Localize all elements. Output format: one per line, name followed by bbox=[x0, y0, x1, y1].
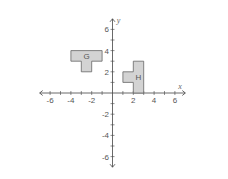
x-tick-label: 6 bbox=[173, 96, 178, 105]
x-tick-label: -2 bbox=[88, 96, 96, 105]
x-tick-label: 4 bbox=[152, 96, 157, 105]
coordinate-plane: GH -6-4-2246642-2-4-6xy bbox=[0, 0, 228, 179]
y-tick-label: 6 bbox=[105, 25, 110, 34]
y-tick-label: -2 bbox=[102, 110, 110, 119]
tick-labels: -6-4-2246642-2-4-6xy bbox=[47, 16, 183, 162]
axes bbox=[40, 19, 186, 167]
x-axis-label: x bbox=[177, 82, 182, 91]
x-tick-label: -6 bbox=[47, 96, 55, 105]
y-tick-label: -4 bbox=[102, 131, 110, 140]
shape-g-label: G bbox=[83, 52, 89, 61]
x-tick-label: -4 bbox=[67, 96, 75, 105]
y-tick-label: 2 bbox=[105, 68, 110, 77]
y-tick-label: 4 bbox=[105, 47, 110, 56]
y-tick-label: -6 bbox=[102, 153, 110, 162]
shape-h-label: H bbox=[136, 73, 142, 82]
x-tick-label: 2 bbox=[131, 96, 136, 105]
y-axis-label: y bbox=[116, 16, 121, 25]
